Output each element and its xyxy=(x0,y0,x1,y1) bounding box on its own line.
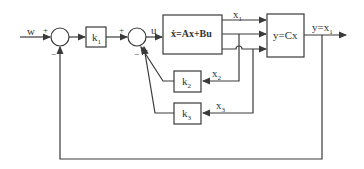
gain-k3-label: k3 xyxy=(182,108,191,122)
gain-k2-label: k2 xyxy=(182,76,191,90)
signal-x2-label: x2 xyxy=(212,68,221,82)
gain-k1-label: k1 xyxy=(92,32,101,46)
sum2-plus-sign: + xyxy=(119,26,124,35)
output-y-label: y=x1 xyxy=(312,22,333,36)
summing-junction-2 xyxy=(128,28,146,46)
output-equation-label: y=Cx xyxy=(273,30,298,41)
state-equation-label: ẋ=Ax+Bu xyxy=(171,29,212,39)
sum2-minus-sign: − xyxy=(134,50,139,59)
signal-u-label: u xyxy=(151,25,157,36)
sum1-minus-sign: − xyxy=(51,50,56,59)
input-w-label: w xyxy=(27,26,35,37)
signal-x3-label: x3 xyxy=(216,100,225,114)
sum1-plus-sign: + xyxy=(43,26,48,35)
signal-x1-label: x1 xyxy=(233,9,242,23)
summing-junction-1 xyxy=(51,28,69,46)
